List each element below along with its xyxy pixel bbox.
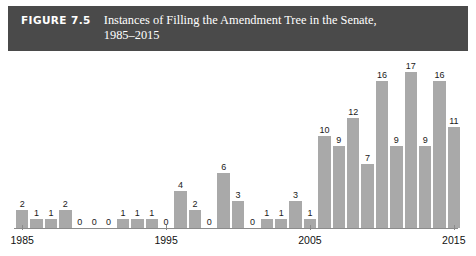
bar-1992: 1 bbox=[117, 52, 129, 228]
x-tick-label-1985: 1985 bbox=[11, 234, 34, 246]
bar-1997: 2 bbox=[189, 52, 201, 228]
bar-2012: 17 bbox=[405, 52, 417, 228]
bar-value-label: 17 bbox=[405, 61, 417, 71]
bar-2003: 1 bbox=[275, 52, 287, 228]
bar-value-label: 2 bbox=[189, 199, 201, 209]
bar-value-label: 6 bbox=[217, 162, 229, 172]
bar-rect bbox=[448, 127, 460, 228]
bar-value-label: 9 bbox=[390, 135, 402, 145]
bar-2005: 1 bbox=[304, 52, 316, 228]
bar-2002: 1 bbox=[261, 52, 273, 228]
figure-root: FIGURE 7.5 Instances of Filling the Amen… bbox=[0, 0, 476, 256]
bar-2008: 12 bbox=[347, 52, 359, 228]
figure-number-label: FIGURE 7.5 bbox=[21, 13, 91, 26]
bar-2000: 3 bbox=[232, 52, 244, 228]
bar-value-label: 1 bbox=[30, 208, 42, 218]
bar-rect bbox=[433, 81, 445, 228]
bar-2001: 0 bbox=[246, 52, 258, 228]
bar-2007: 9 bbox=[333, 52, 345, 228]
bar-value-label: 1 bbox=[45, 208, 57, 218]
bar-rect bbox=[217, 173, 229, 228]
bar-value-label: 1 bbox=[261, 208, 273, 218]
bar-value-label: 16 bbox=[376, 70, 388, 80]
bar-value-label: 2 bbox=[59, 199, 71, 209]
bar-value-label: 9 bbox=[419, 135, 431, 145]
bar-2011: 9 bbox=[390, 52, 402, 228]
bar-1991: 0 bbox=[102, 52, 114, 228]
figure-title-line-1: Instances of Filling the Amendment Tree … bbox=[104, 13, 377, 27]
bar-1999: 6 bbox=[217, 52, 229, 228]
bar-chart: 2112000111042063011311091271691791611 19… bbox=[0, 52, 476, 256]
bar-value-label: 1 bbox=[304, 208, 316, 218]
x-tick-1985 bbox=[22, 225, 23, 230]
bar-2015: 11 bbox=[448, 52, 460, 228]
bar-rect bbox=[289, 201, 301, 229]
x-tick-2005 bbox=[310, 225, 311, 230]
bar-value-label: 11 bbox=[448, 116, 460, 126]
bar-1990: 0 bbox=[88, 52, 100, 228]
bar-1995: 0 bbox=[160, 52, 172, 228]
bar-2010: 16 bbox=[376, 52, 388, 228]
bar-rect bbox=[390, 146, 402, 229]
figure-title: Instances of Filling the Amendment Tree … bbox=[104, 13, 377, 42]
x-tick-label-1995: 1995 bbox=[154, 234, 177, 246]
bar-value-label: 1 bbox=[131, 208, 143, 218]
bar-value-label: 9 bbox=[333, 135, 345, 145]
bar-rect bbox=[232, 201, 244, 229]
bar-value-label: 3 bbox=[289, 190, 301, 200]
bar-1998: 0 bbox=[203, 52, 215, 228]
figure-title-line-2: 1985–2015 bbox=[104, 28, 377, 43]
bar-rect bbox=[174, 191, 186, 228]
bar-2013: 9 bbox=[419, 52, 431, 228]
bar-rect bbox=[361, 164, 373, 228]
bar-rect bbox=[333, 146, 345, 229]
bar-value-label: 1 bbox=[146, 208, 158, 218]
bar-1996: 4 bbox=[174, 52, 186, 228]
bar-value-label: 16 bbox=[433, 70, 445, 80]
bar-value-label: 1 bbox=[117, 208, 129, 218]
bar-value-label: 3 bbox=[232, 190, 244, 200]
bar-rect bbox=[318, 136, 330, 228]
bar-value-label: 2 bbox=[16, 199, 28, 209]
bar-2009: 7 bbox=[361, 52, 373, 228]
bar-rect bbox=[347, 118, 359, 228]
bar-1988: 2 bbox=[59, 52, 71, 228]
bar-value-label: 4 bbox=[174, 180, 186, 190]
x-tick-1995 bbox=[166, 225, 167, 230]
bar-1985: 2 bbox=[16, 52, 28, 228]
bar-value-label: 10 bbox=[318, 125, 330, 135]
x-axis-ticks bbox=[16, 225, 460, 230]
bar-2006: 10 bbox=[318, 52, 330, 228]
x-tick-label-2015: 2015 bbox=[442, 234, 465, 246]
x-tick-2015 bbox=[454, 225, 455, 230]
bar-1989: 0 bbox=[74, 52, 86, 228]
x-axis-labels: 1985199520052015 bbox=[16, 234, 460, 250]
bar-1994: 1 bbox=[146, 52, 158, 228]
bar-series: 2112000111042063011311091271691791611 bbox=[16, 52, 460, 228]
bar-value-label: 12 bbox=[347, 107, 359, 117]
bar-1993: 1 bbox=[131, 52, 143, 228]
bar-value-label: 7 bbox=[361, 153, 373, 163]
bar-2004: 3 bbox=[289, 52, 301, 228]
x-tick-label-2005: 2005 bbox=[298, 234, 321, 246]
bar-rect bbox=[376, 81, 388, 228]
bar-2014: 16 bbox=[433, 52, 445, 228]
bar-rect bbox=[405, 72, 417, 228]
figure-header: FIGURE 7.5 Instances of Filling the Amen… bbox=[8, 6, 468, 51]
bar-value-label: 1 bbox=[275, 208, 287, 218]
bar-1987: 1 bbox=[45, 52, 57, 228]
bar-1986: 1 bbox=[30, 52, 42, 228]
bar-rect bbox=[419, 146, 431, 229]
